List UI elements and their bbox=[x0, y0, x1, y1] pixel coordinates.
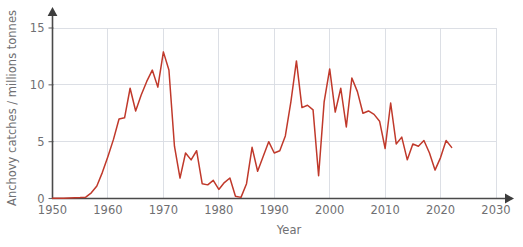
x-axis-tick-label: 2020 bbox=[426, 203, 455, 217]
chart-container: 051015 195019601970198019902000201020202… bbox=[0, 0, 523, 247]
x-axis-tick-label: 1990 bbox=[260, 203, 289, 217]
x-axis-title: Year bbox=[276, 223, 302, 237]
x-axis-tick-label: 1960 bbox=[93, 203, 122, 217]
x-axis-tick-label: 2030 bbox=[481, 203, 510, 217]
x-axis-tick-label: 2010 bbox=[370, 203, 399, 217]
y-axis-tick-label: 15 bbox=[30, 21, 45, 35]
y-axis-ticks-group: 051015 bbox=[30, 21, 54, 206]
x-axis-tick-label: 1980 bbox=[204, 203, 233, 217]
y-axis-arrowhead bbox=[48, 7, 58, 16]
y-axis-tick-label: 5 bbox=[37, 135, 44, 149]
gridlines-group bbox=[53, 28, 497, 199]
data-line-anchovy-catches bbox=[53, 52, 452, 198]
y-axis-tick-label: 10 bbox=[30, 78, 45, 92]
x-axis-ticks-group: 195019601970198019902000201020202030 bbox=[38, 203, 511, 217]
anchovy-catches-line-chart: 051015 195019601970198019902000201020202… bbox=[0, 0, 523, 247]
y-axis-title: Anchovy catches / millions tonnes bbox=[5, 10, 19, 206]
x-axis-tick-label: 1950 bbox=[38, 203, 67, 217]
x-axis-tick-label: 2000 bbox=[315, 203, 344, 217]
x-axis-tick-label: 1970 bbox=[149, 203, 178, 217]
